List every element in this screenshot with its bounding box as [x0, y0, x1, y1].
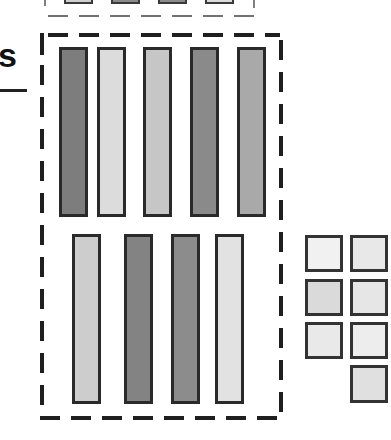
top-partial-box [158, 0, 187, 4]
top-partial-box [64, 0, 93, 4]
square-tile [350, 322, 388, 359]
section-label: s [0, 38, 17, 72]
bar-top-3 [143, 47, 172, 217]
bar-bottom-1 [72, 234, 101, 404]
square-tile [305, 322, 343, 359]
square-tile [350, 235, 388, 272]
label-underline [0, 89, 27, 92]
top-partial-box [111, 0, 140, 4]
square-tile [305, 279, 343, 316]
square-tile [350, 279, 388, 316]
bar-bottom-3 [171, 234, 200, 404]
bar-bottom-4 [215, 234, 244, 404]
top-partial-box [205, 0, 234, 4]
bar-top-2 [97, 47, 126, 217]
square-tile [350, 365, 388, 403]
bar-bottom-2 [124, 234, 153, 404]
bar-top-5 [237, 47, 266, 217]
bar-top-4 [190, 47, 219, 217]
bar-top-1 [59, 47, 88, 217]
square-tile [305, 235, 343, 272]
